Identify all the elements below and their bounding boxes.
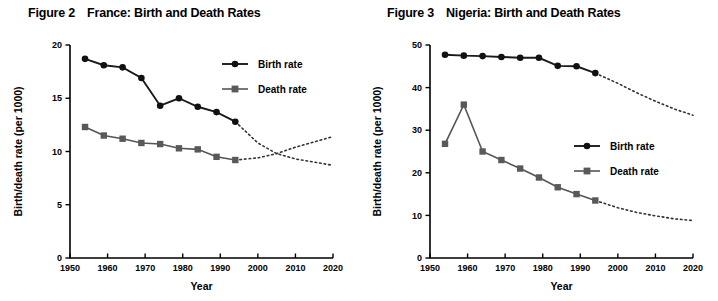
x-tick-label: 1990 xyxy=(570,263,590,273)
legend-label-birth: Birth rate xyxy=(610,141,655,152)
series-projection-birth xyxy=(595,73,693,115)
x-tick-label: 1980 xyxy=(533,263,553,273)
y-axis-title: Birth/death rate (per 1000) xyxy=(12,86,24,216)
x-tick-label: 2020 xyxy=(323,263,343,273)
data-point-birth xyxy=(498,54,505,61)
data-point-birth xyxy=(176,95,183,102)
legend-label-death: Death rate xyxy=(258,84,307,95)
data-point-death xyxy=(442,141,448,147)
data-point-birth xyxy=(554,63,561,70)
x-tick-label: 1960 xyxy=(458,263,478,273)
figure-page: Figure 2France: Birth and Death Rates 05… xyxy=(0,0,718,301)
data-point-birth xyxy=(194,103,201,110)
data-point-death xyxy=(176,145,182,151)
data-point-death xyxy=(479,148,485,154)
x-axis-title: Year xyxy=(190,280,212,292)
data-point-death xyxy=(232,157,238,163)
data-point-birth xyxy=(517,54,524,61)
legend-marker-death-icon xyxy=(232,86,239,93)
series-projection-death xyxy=(595,200,693,220)
data-point-birth xyxy=(138,75,145,82)
data-point-death xyxy=(101,132,107,138)
y-tick-label: 15 xyxy=(52,93,62,103)
data-point-death xyxy=(498,157,504,163)
x-tick-label: 1950 xyxy=(60,263,80,273)
x-tick-label: 1960 xyxy=(98,263,118,273)
data-point-death xyxy=(555,184,561,190)
data-point-birth xyxy=(479,53,486,60)
legend-marker-birth-icon xyxy=(584,143,591,150)
x-tick-label: 1980 xyxy=(173,263,193,273)
x-axis-title: Year xyxy=(550,280,572,292)
data-point-birth xyxy=(536,54,543,61)
x-tick-label: 2010 xyxy=(285,263,305,273)
data-point-death xyxy=(195,146,201,152)
series-line-birth xyxy=(85,59,235,122)
x-tick-label: 2020 xyxy=(683,263,703,273)
x-tick-label: 2010 xyxy=(645,263,665,273)
x-tick-label: 1950 xyxy=(420,263,440,273)
legend-label-birth: Birth rate xyxy=(258,59,303,70)
figure-nigeria: Figure 3Nigeria: Birth and Death Rates 0… xyxy=(359,0,718,301)
x-tick-label: 2000 xyxy=(248,263,268,273)
figure-france: Figure 2France: Birth and Death Rates 05… xyxy=(0,0,359,301)
y-tick-label: 0 xyxy=(417,253,422,263)
data-point-death xyxy=(82,124,88,130)
y-axis-title: Birth/death rate (per 1000) xyxy=(371,86,383,216)
chart-nigeria: 0102030405019501960197019801990200020102… xyxy=(359,0,718,301)
data-point-birth xyxy=(119,64,126,71)
y-tick-label: 5 xyxy=(57,200,62,210)
data-point-death xyxy=(157,141,163,147)
y-tick-label: 0 xyxy=(57,253,62,263)
y-tick-label: 10 xyxy=(52,147,62,157)
data-point-birth xyxy=(592,70,599,77)
chart-france: 0510152019501960197019801990200020102020… xyxy=(0,0,359,301)
data-point-birth xyxy=(213,109,220,116)
data-point-death xyxy=(573,191,579,197)
data-point-death xyxy=(119,136,125,142)
y-tick-label: 40 xyxy=(412,83,422,93)
data-point-birth xyxy=(573,63,580,70)
data-point-death xyxy=(461,101,467,107)
data-point-birth xyxy=(101,62,108,69)
data-point-death xyxy=(536,174,542,180)
x-tick-label: 1970 xyxy=(495,263,515,273)
data-point-death xyxy=(138,140,144,146)
data-point-birth xyxy=(461,52,468,59)
y-tick-label: 30 xyxy=(412,125,422,135)
data-point-death xyxy=(517,165,523,171)
data-point-birth xyxy=(442,52,449,59)
legend-label-death: Death rate xyxy=(610,166,659,177)
y-tick-label: 50 xyxy=(412,40,422,50)
legend-marker-birth-icon xyxy=(232,61,239,68)
y-tick-label: 20 xyxy=(52,40,62,50)
y-tick-label: 20 xyxy=(412,168,422,178)
x-tick-label: 1970 xyxy=(135,263,155,273)
y-tick-label: 10 xyxy=(412,211,422,221)
data-point-birth xyxy=(82,56,89,63)
x-tick-label: 2000 xyxy=(608,263,628,273)
data-point-birth xyxy=(232,118,239,125)
series-line-death xyxy=(445,105,595,201)
data-point-birth xyxy=(157,102,164,109)
legend-marker-death-icon xyxy=(584,168,591,175)
data-point-death xyxy=(592,197,598,203)
data-point-death xyxy=(213,154,219,160)
x-tick-label: 1990 xyxy=(210,263,230,273)
